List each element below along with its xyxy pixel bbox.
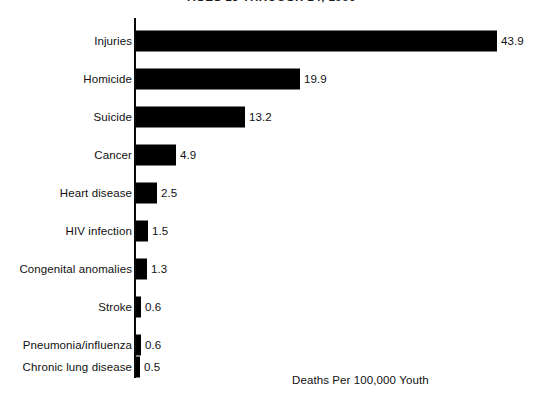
bar	[136, 183, 157, 204]
category-label: Congenital anomalies	[19, 263, 132, 275]
table-row: Homicide 19.9	[0, 60, 543, 98]
plot-area: Injuries 43.9 Homicide 19.9 Suicide 13.2…	[0, 0, 543, 401]
bar	[136, 69, 300, 90]
bar	[136, 259, 147, 280]
bar-value-label: 13.2	[249, 111, 272, 123]
bar-value-label: 19.9	[304, 73, 327, 85]
bar	[136, 107, 245, 128]
bar	[136, 31, 497, 52]
bar	[136, 357, 140, 378]
bar	[136, 221, 148, 242]
bar-value-label: 43.9	[501, 35, 524, 47]
category-label: Homicide	[83, 73, 132, 85]
category-label: Injuries	[94, 35, 132, 47]
table-row: Congenital anomalies 1.3	[0, 250, 543, 288]
table-row: Heart disease 2.5	[0, 174, 543, 212]
bar-value-label: 4.9	[180, 149, 196, 161]
category-label: Chronic lung disease	[23, 361, 132, 373]
category-label: Suicide	[94, 111, 132, 123]
category-label: HIV infection	[66, 225, 133, 237]
bar-value-label: 1.5	[152, 225, 168, 237]
table-row: HIV infection 1.5	[0, 212, 543, 250]
category-label: Heart disease	[60, 187, 132, 199]
table-row: Stroke 0.6	[0, 288, 543, 326]
category-label: Stroke	[98, 301, 132, 313]
bar-chart: AGES 15 THROUGH 24, 1996 Injuries 43.9 H…	[0, 0, 543, 401]
x-axis-caption: Deaths Per 100,000 Youth	[292, 374, 429, 386]
bar-value-label: 2.5	[161, 187, 177, 199]
table-row: Injuries 43.9	[0, 22, 543, 60]
table-row: Cancer 4.9	[0, 136, 543, 174]
bar-value-label: 0.5	[144, 361, 160, 373]
bar	[136, 297, 141, 318]
table-row: Chronic lung disease 0.5	[0, 348, 543, 386]
category-label: Cancer	[94, 149, 132, 161]
bar-value-label: 1.3	[151, 263, 167, 275]
table-row: Suicide 13.2	[0, 98, 543, 136]
bar-value-label: 0.6	[145, 301, 161, 313]
bar	[136, 145, 176, 166]
